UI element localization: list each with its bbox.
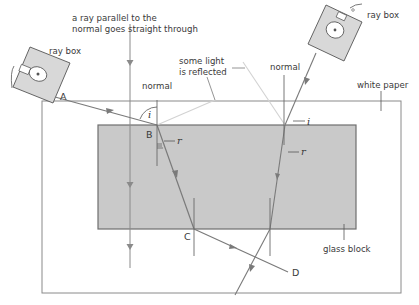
glass-block-label: glass block [323, 244, 371, 254]
reflected-label-line1: some light [179, 56, 225, 66]
point-B-label: B [146, 129, 153, 140]
parallel-ray-label-line2: normal goes straight through [72, 24, 198, 34]
normal-right-label: normal [270, 62, 300, 72]
glass-block [98, 125, 356, 229]
reflected-label-line2: is reflected [179, 67, 227, 77]
point-C-label: C [184, 231, 191, 242]
point-A-label: A [60, 91, 67, 102]
parallel-ray-label-line1: a ray parallel to the [72, 13, 157, 23]
ray-box-right-label: ray box [367, 10, 399, 20]
angle-i-label-right: i [307, 116, 310, 127]
ray-box-right [308, 4, 362, 61]
white-paper-label: white paper [357, 80, 409, 90]
normal-left-label: normal [142, 81, 172, 91]
angle-i-label-left: i [148, 109, 151, 120]
ray-box-left-label: ray box [49, 46, 81, 56]
refraction-diagram: a ray parallel to the normal goes straig… [0, 0, 419, 305]
point-D-label: D [292, 267, 299, 278]
